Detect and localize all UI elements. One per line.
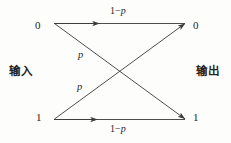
output-node-0-label: 0 <box>193 20 199 31</box>
edge-label-lower-cross: p <box>77 82 82 93</box>
edge-label-bottom-symbol: p <box>121 123 126 134</box>
input-side-label: 输入 <box>9 66 32 78</box>
edge-label-bottom-prefix: 1− <box>110 123 121 134</box>
edge-label-bottom-straight: 1−p <box>110 124 126 134</box>
input-node-1-label: 1 <box>36 112 42 123</box>
output-node-1-label: 1 <box>193 112 199 123</box>
edge-label-upper-cross: p <box>78 50 83 61</box>
edge-label-top-prefix: 1− <box>110 5 121 16</box>
edge-label-top-symbol: p <box>121 5 126 16</box>
bsc-diagram-figure: 0 1 0 1 输入 输出 1−p 1−p p p <box>0 0 231 143</box>
output-side-label: 输出 <box>196 66 219 78</box>
edge-label-top-straight: 1−p <box>110 6 126 16</box>
input-node-0-label: 0 <box>35 20 41 31</box>
